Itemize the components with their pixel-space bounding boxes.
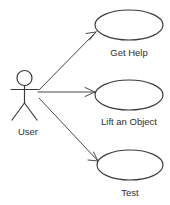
- actor-head-icon: [17, 71, 32, 86]
- use-case-label: Test: [121, 187, 139, 198]
- diagram-canvas: Get Help Lift an Object Test User: [0, 0, 170, 205]
- actor-label: User: [18, 126, 38, 137]
- use-case-diagram: Get Help Lift an Object Test User: [0, 0, 170, 205]
- use-case-ellipse: [95, 80, 163, 110]
- actor-left-leg-icon: [12, 103, 25, 120]
- use-case-ellipse: [95, 10, 163, 40]
- use-case-get-help[interactable]: Get Help: [95, 10, 163, 58]
- use-case-ellipse: [97, 150, 163, 180]
- association-user-to-lift-an-object[interactable]: [38, 88, 95, 97]
- use-case-label: Lift an Object: [101, 116, 157, 127]
- use-case-label: Get Help: [110, 47, 148, 58]
- association-line: [39, 32, 96, 90]
- arrowhead-icon: [86, 32, 96, 40]
- association-user-to-get-help[interactable]: [39, 32, 96, 90]
- actor-user[interactable]: User: [11, 71, 38, 138]
- association-line: [39, 98, 98, 161]
- use-case-lift-an-object[interactable]: Lift an Object: [95, 80, 163, 127]
- use-case-test[interactable]: Test: [97, 150, 163, 198]
- association-user-to-test[interactable]: [39, 98, 98, 161]
- actor-right-leg-icon: [25, 103, 38, 120]
